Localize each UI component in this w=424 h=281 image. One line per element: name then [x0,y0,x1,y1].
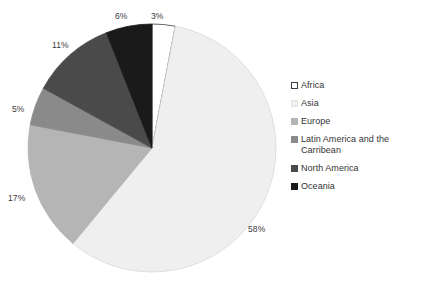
legend-item[interactable]: Latin America and the Carribean [291,134,424,156]
legend-item[interactable]: Oceania [291,181,424,192]
slice-percent-label: 3% [151,12,164,21]
legend-swatch-icon [291,136,298,143]
legend-swatch-icon [291,100,298,107]
pie-slice-group [28,24,276,272]
legend-item-label: Africa [301,80,324,91]
legend-item-label: North America [301,163,359,174]
pie-svg [0,0,290,281]
pie-plot-area: 3%58%17%5%11%6% [0,0,290,281]
slice-percent-label: 5% [12,105,25,114]
pie-chart: 3%58%17%5%11%6% AfricaAsiaEuropeLatin Am… [0,0,424,281]
legend-item-label: Europe [301,116,330,127]
legend-swatch-icon [291,165,298,172]
legend-item[interactable]: Africa [291,80,424,91]
slice-percent-label: 58% [248,225,265,234]
legend-item[interactable]: North America [291,163,424,174]
slice-percent-label: 6% [115,12,128,21]
legend-swatch-icon [291,82,298,89]
legend-item[interactable]: Europe [291,116,424,127]
slice-percent-label: 17% [8,194,25,203]
legend-item-label: Asia [301,98,319,109]
legend-swatch-icon [291,183,298,190]
chart-legend: AfricaAsiaEuropeLatin America and the Ca… [291,80,424,192]
legend-swatch-icon [291,118,298,125]
legend-item[interactable]: Asia [291,98,424,109]
legend-item-label: Latin America and the Carribean [301,134,424,156]
legend-item-label: Oceania [301,181,335,192]
slice-percent-label: 11% [52,41,69,50]
